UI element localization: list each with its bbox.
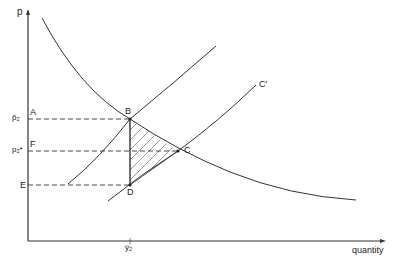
supply-curve	[68, 46, 216, 184]
point-d-label: D	[127, 188, 134, 197]
demand-curve	[42, 18, 356, 200]
y-axis-arrow-icon	[26, 9, 30, 15]
x-axis-label: quantity	[352, 246, 384, 255]
point-f-label: F	[30, 140, 36, 149]
shaded-region-bcd	[110, 110, 220, 220]
shifted-supply-label: C′	[259, 80, 267, 89]
x-axis-arrow-icon	[380, 239, 386, 243]
point-b-marker	[128, 117, 131, 120]
point-e-label: E	[20, 181, 26, 190]
price-label-p-hat: p̂₂	[12, 114, 20, 122]
point-b-label: B	[125, 107, 131, 116]
point-c-label: C	[184, 146, 191, 155]
price-label-p-star: p₂*	[12, 146, 23, 154]
point-c-marker	[176, 149, 179, 152]
point-a-label: A	[30, 108, 36, 117]
diagram-canvas	[0, 0, 401, 266]
x-tick-label: ŷ₂	[125, 244, 132, 252]
y-axis-label: p	[17, 7, 23, 17]
